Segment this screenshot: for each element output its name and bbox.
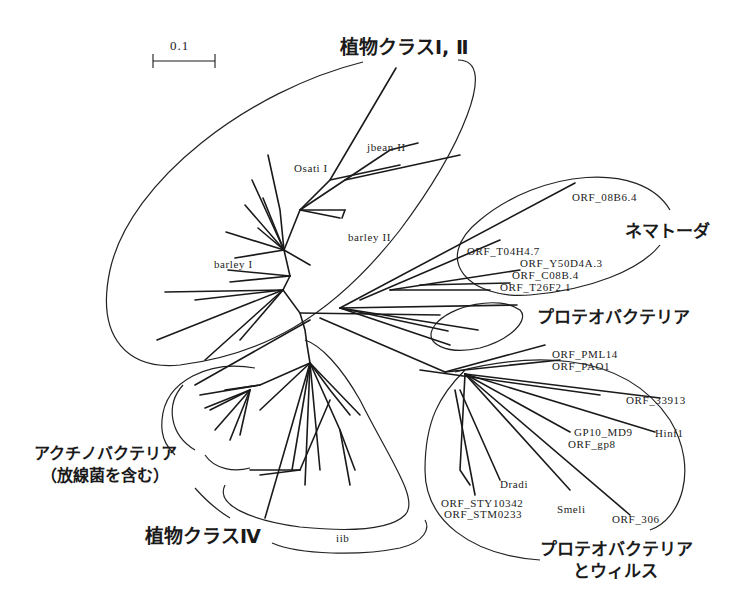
tree-branches (157, 68, 660, 518)
group-label-plant-class-4: 植物クラスⅣ (145, 525, 261, 547)
group-label-proteobacteria: プロテオバクテリア (537, 306, 690, 328)
group-label-actinobacteria-line1: アクチノバクテリア (20, 443, 190, 465)
leaf-label-gp10-md9: GP10_MD9 (574, 426, 633, 438)
leaf-label-orf-y50d4a-3: ORF_Y50D4A.3 (520, 257, 603, 269)
leaf-label-orf-08b6-4: ORF_08B6.4 (572, 191, 637, 203)
leaf-label-jbean2: jbean II (367, 141, 406, 153)
leaf-label-orf-33913: ORF_33913 (626, 394, 686, 406)
leaf-label-barley2: barley II (348, 231, 391, 243)
leaf-label-orf-306: ORF_306 (612, 513, 660, 525)
enclosure-plant-class-1-2 (106, 60, 475, 366)
group-label-nematoda: ネマトーダ (625, 220, 710, 242)
group-label-actinobacteria: アクチノバクテリア （放線菌を含む） (20, 443, 190, 487)
enclosure-actinobacteria-inner (172, 385, 195, 450)
scale-bar-label: 0.1 (170, 38, 189, 54)
leaf-label-smeli: Smeli (557, 503, 586, 515)
scale-bar (153, 54, 215, 68)
group-label-proteobacteria-virus: プロテオバクテリア とウィルス (540, 538, 690, 582)
leaf-label-osati1: Osati I (294, 162, 328, 174)
enclosure-plant-class-4-lower (195, 488, 230, 518)
leaf-label-orf-c08b-4: ORF_C08B.4 (512, 269, 579, 281)
group-label-proteobacteria-virus-line2: とウィルス (540, 560, 690, 582)
group-label-proteobacteria-virus-line1: プロテオバクテリア (540, 538, 690, 560)
leaf-label-barley1: barley I (214, 258, 253, 270)
leaf-label-orf-pao1: ORF_PAO1 (552, 360, 610, 372)
leaf-label-orf-stm0233: ORF_STM0233 (444, 508, 522, 520)
leaf-label-orf-gp8: ORF_gp8 (568, 438, 616, 450)
leaf-label-hinf1: Hinf1 (655, 427, 684, 439)
group-label-plant-class-1-2: 植物クラスⅠ, Ⅱ (340, 36, 468, 58)
enclosure-actinobacteria-lower (205, 455, 250, 470)
phylogenetic-tree-figure: 0.1 植物クラスⅠ, Ⅱ ネマトーダ プロテオバクテリア プロテオバクテリア … (0, 0, 742, 604)
leaf-label-orf-t04h4-7: ORF_T04H4.7 (467, 245, 540, 257)
leaf-label-iib: iib (336, 532, 349, 544)
leaf-label-orf-t26f2-1: ORF_T26F2.1 (500, 281, 571, 293)
group-label-actinobacteria-line2: （放線菌を含む） (20, 465, 190, 487)
leaf-label-orf-pml14: ORF_PML14 (552, 348, 618, 360)
leaf-label-dradi: Dradi (500, 478, 528, 490)
